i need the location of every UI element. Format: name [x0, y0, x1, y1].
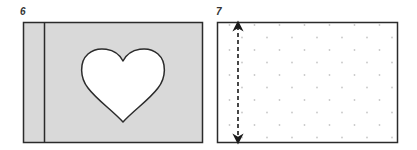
dot-grid [219, 24, 397, 142]
figure-7-card [218, 23, 398, 143]
figure-6-card [24, 23, 203, 143]
